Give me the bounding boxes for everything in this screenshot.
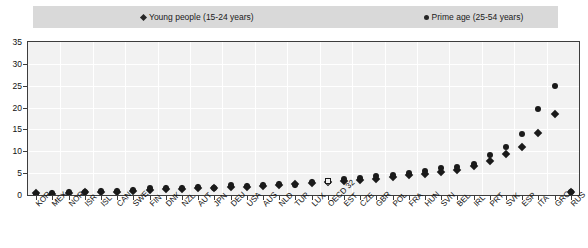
y-axis-tick-label: 25 bbox=[0, 82, 22, 90]
gridline-vertical bbox=[320, 42, 321, 195]
data-point-prime-age bbox=[406, 170, 412, 176]
data-point-prime-age bbox=[471, 161, 477, 167]
gridline-vertical bbox=[190, 42, 191, 195]
gridline-vertical bbox=[222, 42, 223, 195]
gridline-vertical bbox=[514, 42, 515, 195]
data-point-prime-age bbox=[130, 187, 136, 193]
y-axis-tick-mark bbox=[23, 86, 27, 87]
gridline-horizontal bbox=[28, 173, 579, 174]
y-axis-tick-label: 30 bbox=[0, 60, 22, 68]
data-point-prime-age bbox=[260, 182, 266, 188]
y-axis-tick-mark bbox=[23, 108, 27, 109]
diamond-marker-icon bbox=[140, 13, 147, 20]
data-point-prime-age bbox=[292, 182, 298, 188]
data-point-young-people bbox=[518, 143, 526, 151]
legend-item-prime-age: Prime age (25-54 years) bbox=[424, 12, 524, 22]
gridline-vertical bbox=[449, 42, 450, 195]
data-point-prime-age bbox=[422, 168, 428, 174]
y-axis-tick-mark bbox=[23, 151, 27, 152]
gridline-vertical bbox=[417, 42, 418, 195]
gridline-vertical bbox=[482, 42, 483, 195]
gridline-horizontal bbox=[28, 86, 579, 87]
data-point-prime-age bbox=[228, 182, 234, 188]
legend-item-young-people: Young people (15-24 years) bbox=[141, 12, 254, 22]
y-axis-tick-mark bbox=[23, 173, 27, 174]
data-point-prime-age bbox=[438, 165, 444, 171]
y-axis-tick-mark bbox=[23, 129, 27, 130]
y-axis-tick-label: 10 bbox=[0, 147, 22, 155]
data-point-prime-age bbox=[373, 173, 379, 179]
data-point-prime-age bbox=[211, 185, 217, 191]
data-point-prime-age bbox=[454, 164, 460, 170]
data-point-prime-age bbox=[179, 185, 185, 191]
gridline-vertical bbox=[60, 42, 61, 195]
data-point-prime-age bbox=[487, 152, 493, 158]
data-point-young-people bbox=[550, 110, 558, 118]
data-point-prime-age bbox=[325, 178, 331, 184]
data-point-prime-age bbox=[98, 188, 104, 194]
data-point-prime-age bbox=[276, 181, 282, 187]
gridline-vertical bbox=[158, 42, 159, 195]
plot-area bbox=[27, 41, 580, 196]
data-point-prime-age bbox=[535, 106, 541, 112]
y-axis-tick-label: 35 bbox=[0, 38, 22, 46]
data-point-prime-age bbox=[147, 185, 153, 191]
y-axis-tick-label: 0 bbox=[0, 191, 22, 199]
data-point-prime-age bbox=[390, 172, 396, 178]
gridline-horizontal bbox=[28, 108, 579, 109]
data-point-prime-age bbox=[309, 179, 315, 185]
data-point-prime-age bbox=[163, 185, 169, 191]
gridline-vertical bbox=[547, 42, 548, 195]
gridline-horizontal bbox=[28, 151, 579, 152]
legend-label-prime-age: Prime age (25-54 years) bbox=[432, 12, 524, 22]
y-axis-tick-label: 15 bbox=[0, 125, 22, 133]
data-point-prime-age bbox=[357, 175, 363, 181]
data-point-prime-age bbox=[244, 183, 250, 189]
y-axis-tick-label: 20 bbox=[0, 104, 22, 112]
gridline-horizontal bbox=[28, 64, 579, 65]
y-axis-tick-mark bbox=[23, 64, 27, 65]
chart-legend: Young people (15-24 years) Prime age (25… bbox=[33, 6, 558, 28]
data-point-prime-age bbox=[552, 83, 558, 89]
gridline-vertical bbox=[125, 42, 126, 195]
data-point-prime-age bbox=[195, 184, 201, 190]
gridline-vertical bbox=[93, 42, 94, 195]
legend-label-young-people: Young people (15-24 years) bbox=[149, 12, 254, 22]
gridline-vertical bbox=[287, 42, 288, 195]
gridline-vertical bbox=[352, 42, 353, 195]
gridline-vertical bbox=[255, 42, 256, 195]
data-point-prime-age bbox=[114, 188, 120, 194]
gridline-horizontal bbox=[28, 129, 579, 130]
data-point-prime-age bbox=[519, 131, 525, 137]
circle-marker-icon bbox=[424, 15, 429, 20]
gridline-vertical bbox=[385, 42, 386, 195]
chart-figure: Young people (15-24 years) Prime age (25… bbox=[0, 0, 588, 248]
y-axis-tick-label: 5 bbox=[0, 169, 22, 177]
data-point-prime-age bbox=[503, 144, 509, 150]
